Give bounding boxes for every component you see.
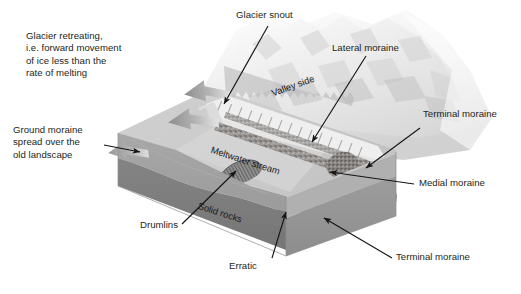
callout-lateral-moraine: Lateral moraine bbox=[332, 42, 399, 54]
callout-medial-moraine: Medial moraine bbox=[419, 177, 485, 189]
callout-ground-moraine: Ground moraine spread over the old lands… bbox=[13, 124, 123, 161]
callout-erratic: Erratic bbox=[229, 260, 257, 272]
callout-terminal-moraine-bottom: Terminal moraine bbox=[396, 251, 470, 263]
callout-drumlins: Drumlins bbox=[140, 219, 178, 231]
callout-glacier-snout: Glacier snout bbox=[236, 9, 293, 21]
diagram-canvas: Glacier retreating, i.e. forward movemen… bbox=[0, 0, 521, 294]
callout-terminal-moraine-top: Terminal moraine bbox=[423, 108, 497, 120]
callout-glacier-retreating: Glacier retreating, i.e. forward movemen… bbox=[26, 30, 146, 80]
